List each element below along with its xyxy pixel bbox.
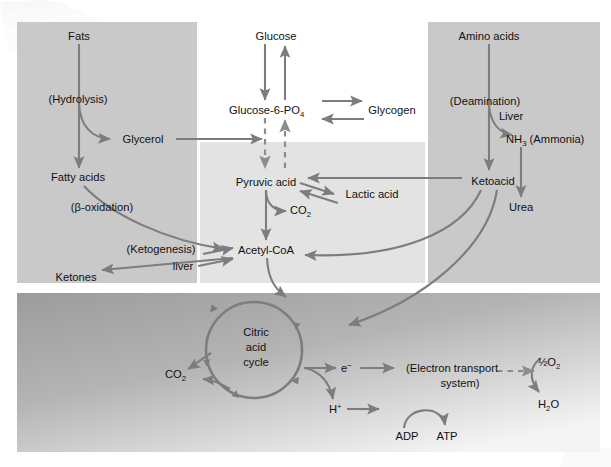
carbohydrate-panel <box>200 142 425 283</box>
label-amino-acids: Amino acids <box>459 30 520 42</box>
label-lactic-acid: Lactic acid <box>346 188 399 200</box>
label-hydrolysis: (Hydrolysis) <box>48 93 107 105</box>
label-fatty-acids: Fatty acids <box>51 171 105 183</box>
label-ketones: Ketones <box>55 271 96 283</box>
label-glycogen: Glycogen <box>368 104 415 116</box>
label-acetyl-coa: Acetyl-CoA <box>238 244 294 256</box>
label-ketoacid: Ketoacid <box>471 175 515 187</box>
label-fats: Fats <box>68 30 90 42</box>
label-urea: Urea <box>509 201 534 213</box>
label-liver-deamination: Liver <box>499 110 524 122</box>
label-glucose-6-po4: Glucose-6-PO4 <box>229 104 305 119</box>
label-pyruvic-acid: Pyruvic acid <box>236 176 296 188</box>
mitochondrion-panel <box>17 293 600 452</box>
label-beta-oxidation: (β-oxidation) <box>71 201 134 213</box>
label-ketogenesis: (Ketogenesis) <box>126 243 195 255</box>
label-citric-acid-cycle-line3: cycle <box>243 356 269 368</box>
label-electron-transport-line1: (Electron transport <box>406 362 499 374</box>
metabolism-diagram: Fats (Hydrolysis) Glycerol Fatty acids (… <box>0 0 611 467</box>
label-glucose: Glucose <box>255 30 296 42</box>
label-deamination: (Deamination) <box>450 95 521 107</box>
label-electron-transport-line2: system) <box>440 377 479 389</box>
label-liver-ketogenesis: liver <box>173 260 194 272</box>
protein-panel <box>428 22 600 283</box>
label-citric-acid-cycle-line1: Citric <box>243 326 269 338</box>
label-citric-acid-cycle-line2: acid <box>246 341 267 353</box>
label-adp: ADP <box>395 430 418 442</box>
label-glycerol: Glycerol <box>122 133 163 145</box>
diagram-canvas: Fats (Hydrolysis) Glycerol Fatty acids (… <box>0 0 611 467</box>
label-atp: ATP <box>437 430 458 442</box>
